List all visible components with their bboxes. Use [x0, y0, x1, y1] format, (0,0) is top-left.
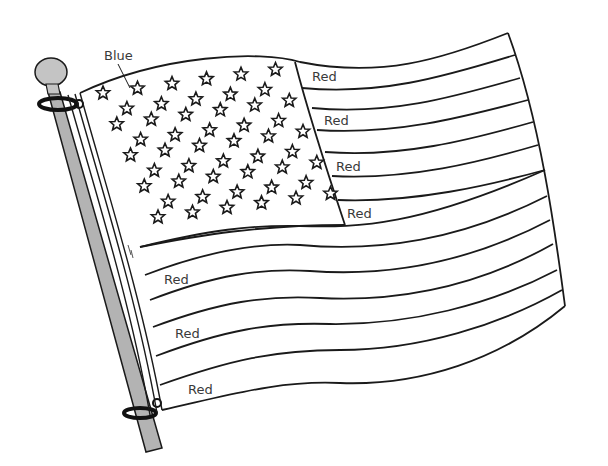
star-icon	[165, 77, 178, 90]
star-icon	[110, 117, 123, 130]
flag-drawing	[0, 0, 608, 466]
star-icon	[207, 170, 220, 183]
star-icon	[203, 123, 216, 136]
star-icon	[310, 156, 323, 169]
star-icon	[234, 67, 247, 80]
star-icon	[262, 129, 275, 142]
star-icon	[272, 114, 285, 127]
star-icon	[220, 201, 233, 214]
label-red-4: Red	[347, 206, 372, 221]
star-icon	[169, 128, 182, 141]
star-icon	[186, 205, 199, 218]
label-red-6: Red	[175, 326, 200, 341]
star-icon	[200, 72, 213, 85]
flagpole	[35, 58, 162, 452]
star-icon	[269, 63, 282, 76]
star-icon	[158, 143, 171, 156]
star-icon	[224, 87, 237, 100]
star-icon	[162, 195, 175, 208]
star-icon	[227, 134, 240, 147]
star-icon	[248, 98, 261, 111]
star-icon	[145, 112, 158, 125]
star-icon	[179, 108, 192, 121]
star-icon	[283, 94, 296, 107]
star-icon	[148, 164, 161, 177]
star-icon	[138, 179, 151, 192]
label-red-7: Red	[188, 382, 213, 397]
label-red-3: Red	[336, 159, 361, 174]
star-icon	[241, 165, 254, 178]
star-icon	[134, 133, 147, 146]
star-icon	[96, 86, 109, 99]
star-icon	[182, 159, 195, 172]
star-icon	[286, 145, 299, 158]
star-icon	[120, 102, 133, 115]
star-icon	[217, 154, 230, 167]
star-icon	[124, 148, 137, 161]
label-blue: Blue	[104, 48, 133, 63]
flag-coloring-page: Blue Red Red Red Red Red Red Red	[0, 0, 608, 466]
star-icon	[258, 83, 271, 96]
star-icon	[265, 180, 278, 193]
star-icon	[131, 81, 144, 94]
star-icon	[255, 196, 268, 209]
star-icon	[300, 176, 313, 189]
star-icon	[289, 191, 302, 204]
star-icon	[238, 118, 251, 131]
star-icon	[196, 190, 209, 203]
star-icon	[251, 149, 264, 162]
star-icon	[189, 92, 202, 105]
star-icon	[214, 103, 227, 116]
label-red-2: Red	[324, 113, 349, 128]
star-icon	[276, 160, 289, 173]
star-icon	[296, 125, 309, 138]
star-icon	[155, 97, 168, 110]
label-red-5: Red	[164, 272, 189, 287]
flag-body	[80, 33, 565, 410]
label-red-1: Red	[312, 69, 337, 84]
star-icon	[193, 139, 206, 152]
star-icon	[172, 174, 185, 187]
star-icon	[231, 185, 244, 198]
flag-sleeve	[68, 93, 162, 415]
star-icon	[151, 210, 164, 223]
